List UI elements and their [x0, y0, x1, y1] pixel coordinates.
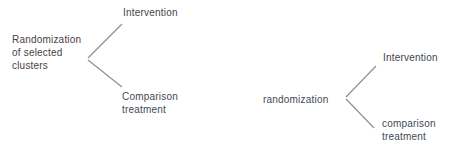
- randomization-diagram: Randomization of selected clusters Inter…: [0, 0, 452, 153]
- node-comparison-treatment-stage1: Comparison treatment: [122, 90, 178, 116]
- node-intervention-stage2: Intervention: [383, 51, 438, 64]
- branch-line-left-upper: [88, 24, 122, 58]
- node-comparison-treatment-stage2: comparison treatment: [382, 117, 436, 143]
- node-intervention-stage1: Intervention: [123, 6, 178, 19]
- branch-line-right-upper: [346, 66, 376, 97]
- node-randomization-stage2: randomization: [263, 93, 328, 106]
- branch-line-left-lower: [88, 60, 122, 87]
- branch-line-right-lower: [346, 99, 374, 128]
- node-randomization-of-selected-clusters: Randomization of selected clusters: [12, 33, 81, 72]
